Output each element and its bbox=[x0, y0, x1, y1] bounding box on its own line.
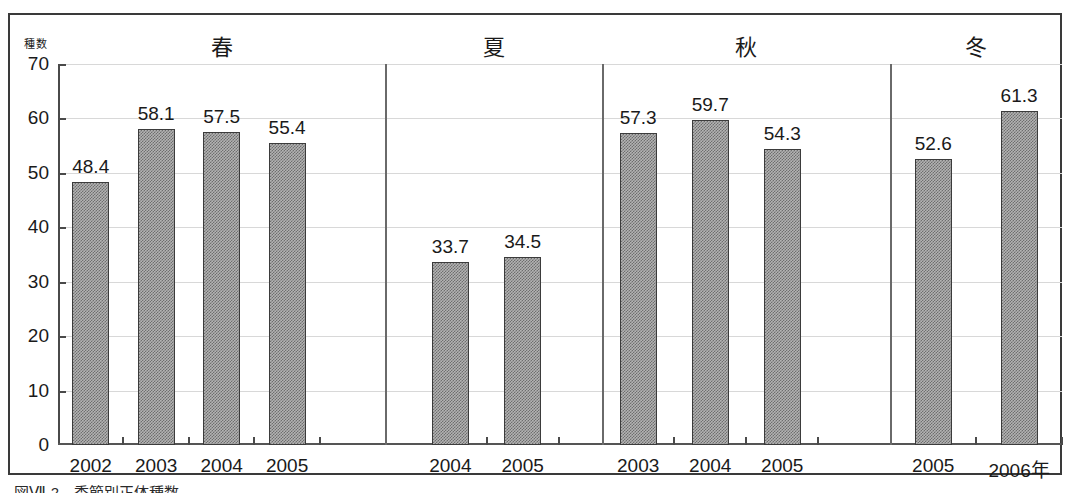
bar: 59.7 bbox=[692, 120, 729, 445]
bar: 55.4 bbox=[269, 143, 306, 445]
x-axis-tick bbox=[319, 437, 321, 445]
figure-frame: 種数 010203040506070 春48.458.157.555.4夏33.… bbox=[8, 13, 1062, 475]
bar-value-label: 54.3 bbox=[764, 123, 801, 145]
season-divider-2 bbox=[602, 64, 604, 445]
plot-area: 010203040506070 春48.458.157.555.4夏33.734… bbox=[58, 64, 1062, 445]
y-axis-tick bbox=[58, 282, 66, 284]
x-axis-label: 2003 bbox=[617, 455, 659, 477]
y-axis-tick-label: 70 bbox=[28, 53, 49, 75]
bar-value-label: 48.4 bbox=[72, 156, 109, 178]
y-axis-top-cap bbox=[58, 64, 66, 66]
bar-value-label: 52.6 bbox=[915, 133, 952, 155]
figure-caption: 図Ⅶ-2 季節別正体種数 bbox=[14, 481, 179, 493]
y-axis-tick-label: 50 bbox=[28, 162, 49, 184]
y-axis-tick bbox=[58, 391, 66, 393]
x-axis-label: 2005 bbox=[266, 455, 308, 477]
bar: 58.1 bbox=[138, 129, 175, 445]
x-axis-tick bbox=[975, 437, 977, 445]
x-axis-label: 2005 bbox=[502, 455, 544, 477]
x-axis-tick bbox=[253, 437, 255, 445]
bar: 57.5 bbox=[203, 132, 240, 445]
season-title-0: 春 bbox=[211, 29, 233, 61]
x-axis-tick bbox=[745, 437, 747, 445]
x-axis-label: 2005 bbox=[761, 455, 803, 477]
season-divider-1 bbox=[385, 64, 387, 445]
x-axis-tick bbox=[122, 437, 124, 445]
gridline bbox=[58, 64, 1062, 65]
bar: 61.3 bbox=[1001, 111, 1038, 445]
y-axis-tick-label: 40 bbox=[28, 216, 49, 238]
season-divider-3 bbox=[890, 64, 892, 445]
bar-value-label: 58.1 bbox=[138, 103, 175, 125]
bar: 34.5 bbox=[504, 257, 541, 445]
y-axis-tick-label: 60 bbox=[28, 107, 49, 129]
y-axis-spine bbox=[58, 64, 60, 445]
y-axis-title: 種数 bbox=[24, 35, 47, 51]
x-axis-tick bbox=[188, 437, 190, 445]
bar-value-label: 34.5 bbox=[504, 231, 541, 253]
bar-value-label: 59.7 bbox=[692, 94, 729, 116]
bar-value-label: 57.3 bbox=[620, 107, 657, 129]
bar: 54.3 bbox=[764, 149, 801, 445]
x-axis-label: 2006年 bbox=[988, 455, 1049, 482]
bar-value-label: 55.4 bbox=[269, 117, 306, 139]
x-axis-label: 2002 bbox=[70, 455, 112, 477]
season-title-3: 冬 bbox=[965, 29, 987, 61]
x-axis-label: 2005 bbox=[912, 455, 954, 477]
y-axis-tick bbox=[58, 227, 66, 229]
bar: 52.6 bbox=[915, 159, 952, 445]
season-title-1: 夏 bbox=[483, 29, 505, 61]
x-axis-tick bbox=[817, 437, 819, 445]
x-axis-tick bbox=[1061, 437, 1063, 445]
x-axis-label: 2003 bbox=[135, 455, 177, 477]
x-axis-tick bbox=[558, 437, 560, 445]
x-axis-label: 2004 bbox=[689, 455, 731, 477]
bar: 57.3 bbox=[620, 133, 657, 445]
y-axis-tick-label: 30 bbox=[28, 271, 49, 293]
y-axis-tick bbox=[58, 173, 66, 175]
y-axis-tick bbox=[58, 118, 66, 120]
y-axis-tick bbox=[58, 336, 66, 338]
bar-value-label: 61.3 bbox=[1001, 85, 1038, 107]
x-axis-label: 2004 bbox=[429, 455, 471, 477]
bar-value-label: 33.7 bbox=[432, 236, 469, 258]
y-axis-tick-label: 20 bbox=[28, 325, 49, 347]
bar-value-label: 57.5 bbox=[203, 106, 240, 128]
bar: 33.7 bbox=[432, 262, 469, 445]
x-axis-label: 2004 bbox=[201, 455, 243, 477]
x-axis-labels: 2002200320042005200420052003200420052005… bbox=[58, 455, 1062, 485]
y-axis-tick-label: 10 bbox=[28, 380, 49, 402]
y-axis-tick-label: 0 bbox=[38, 434, 49, 456]
x-axis-tick bbox=[673, 437, 675, 445]
season-title-2: 秋 bbox=[735, 29, 757, 61]
bar: 48.4 bbox=[72, 182, 109, 445]
x-axis-tick bbox=[486, 437, 488, 445]
